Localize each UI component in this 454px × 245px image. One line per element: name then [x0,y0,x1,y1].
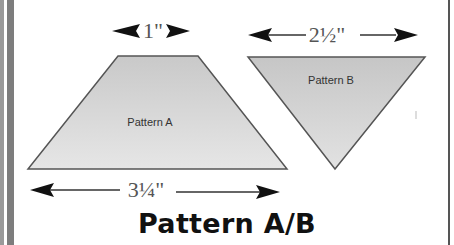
dimension-a-bottom: 3¼" [30,177,280,202]
diagram-title: Pattern A/B [0,208,454,239]
pattern-a-label: Pattern A [127,116,173,128]
dimension-a-bottom-label: 3¼" [128,177,164,202]
arrow-right-icon [394,28,418,42]
dimension-a-top-label: 1" [143,18,163,43]
arrow-right-icon [166,24,190,38]
pattern-a: Pattern A [28,56,287,169]
dimension-a-top: 1" [112,18,190,43]
pattern-b-label: Pattern B [308,74,354,86]
pattern-a-shape [28,56,287,169]
dimension-b-top-label: 2½" [309,22,345,47]
dimension-b-top: 2½" [248,22,418,47]
arrow-left-icon [112,24,140,38]
